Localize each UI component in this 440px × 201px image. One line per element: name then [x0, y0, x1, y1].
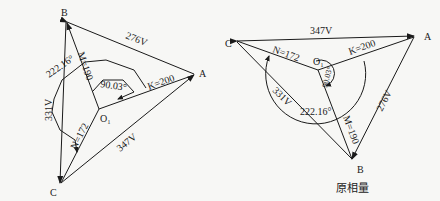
voltage-bc-label: 331V — [43, 98, 54, 121]
vertex-b-label: B — [61, 7, 68, 18]
vertex-b-label: B — [357, 164, 364, 175]
left-phasor-diagram: B A C O₁ 276V 347V 331V K=200 M=190 N=17… — [43, 7, 207, 198]
angle-small-label: 90.03° — [320, 66, 334, 89]
angle-large-label: 222.16° — [300, 106, 332, 117]
caption-label: 原相量 — [336, 182, 369, 195]
phase-m-label: M=190 — [76, 50, 96, 81]
angle-small-label: 90.03° — [100, 78, 128, 93]
voltage-ca-label: 347V — [114, 131, 139, 154]
right-phasor-diagram: C A B O₁ 347V 276V 331V K=200 N=172 M=19… — [225, 25, 432, 195]
vertex-a-label: A — [199, 68, 207, 79]
side-c-b — [60, 22, 66, 183]
phase-m-label: M=190 — [341, 114, 361, 146]
phase-n-label: N=172 — [68, 121, 90, 151]
side-c-a — [237, 36, 414, 41]
origin-label: O₁ — [100, 113, 111, 124]
phase-n-label: N=172 — [271, 44, 301, 64]
voltage-cb-label: 331V — [271, 85, 295, 109]
phase-k-label: K=200 — [347, 37, 377, 57]
voltage-ab-label: 276V — [124, 30, 149, 49]
phasor-diagrams: B A C O₁ 276V 347V 331V K=200 M=190 N=17… — [0, 0, 440, 201]
phase-k-label: K=200 — [146, 72, 176, 92]
vertex-c-label: C — [225, 38, 232, 49]
vertex-a-label: A — [424, 31, 432, 42]
voltage-ab-label: 276V — [374, 87, 394, 112]
angle-large-label: 222.16° — [44, 53, 76, 80]
vertex-c-label: C — [50, 187, 57, 198]
origin-label: O₁ — [313, 56, 324, 67]
voltage-ca-label: 347V — [310, 25, 333, 36]
